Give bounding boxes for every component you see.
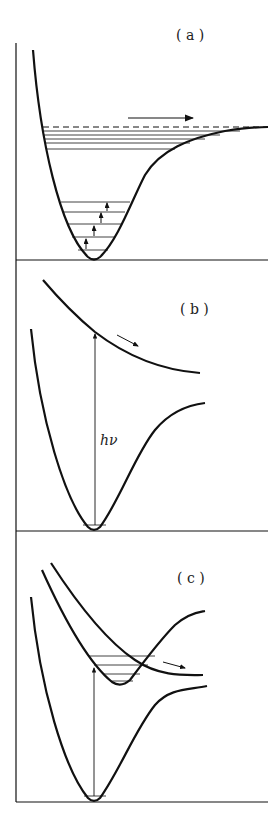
- ground-state-curve: [31, 329, 205, 530]
- potential-energy-diagram: ( a ) ( b ) hν ( c ): [0, 0, 276, 825]
- panel-b-label: ( b ): [180, 301, 209, 317]
- ground-state-curve: [33, 50, 268, 260]
- panel-a-label: ( a ): [176, 27, 204, 43]
- panel-a: [16, 43, 268, 260]
- repulsive-state-curve: [43, 280, 200, 373]
- photon-energy-label: hν: [100, 432, 118, 448]
- panel-b: [16, 260, 268, 531]
- predissociation-arrow-icon: [163, 662, 185, 668]
- dissociation-arrow-icon: [117, 335, 138, 346]
- ground-state-curve: [31, 597, 207, 801]
- panel-c: [16, 531, 268, 802]
- panel-c-label: ( c ): [177, 570, 205, 586]
